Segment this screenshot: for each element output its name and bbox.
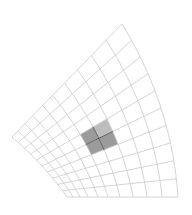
curvilinear-grid-diagram — [0, 0, 192, 215]
background — [0, 0, 192, 215]
